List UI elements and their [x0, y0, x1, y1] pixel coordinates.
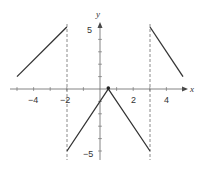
right-branch-line [150, 27, 183, 77]
function-graph: x y −4 −2 2 4 5 −5 [0, 0, 200, 176]
y-axis [98, 22, 103, 160]
y-axis-label: y [95, 9, 100, 19]
left-branch-line [17, 27, 67, 77]
x-tick-label-minus-4: −4 [28, 95, 38, 105]
x-tick-label-minus-2: −2 [60, 95, 70, 105]
middle-branch-line [67, 89, 150, 151]
x-tick-label-4: 4 [164, 95, 169, 105]
peak-point-dot [107, 86, 111, 90]
x-tick-label-2: 2 [131, 95, 136, 105]
x-axis [10, 87, 188, 92]
x-axis-label: x [189, 84, 194, 94]
y-tick-label-minus-5: −5 [83, 149, 93, 159]
y-tick-label-5: 5 [87, 25, 92, 35]
